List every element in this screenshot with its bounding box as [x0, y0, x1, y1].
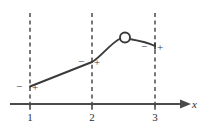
- sign-minus-at-x3: −: [141, 41, 147, 52]
- x-axis-arrowhead: [180, 100, 191, 109]
- tick-label-1: 1: [23, 112, 37, 123]
- sign-plus-at-x3: +: [157, 42, 163, 53]
- sign-minus-at-x2: −: [78, 56, 84, 67]
- sign-plus-at-x2: +: [94, 57, 100, 68]
- x-axis-label: x: [192, 99, 197, 110]
- tick-label-3: 3: [148, 112, 162, 123]
- sign-minus-at-x1: −: [16, 81, 22, 92]
- sign-plus-at-x1: +: [32, 82, 38, 93]
- sign-chart-figure: − + − + − + 1 2 3 x: [0, 0, 202, 129]
- graph-canvas: [0, 0, 202, 129]
- tick-label-2: 2: [85, 112, 99, 123]
- open-circle-marker: [120, 33, 130, 43]
